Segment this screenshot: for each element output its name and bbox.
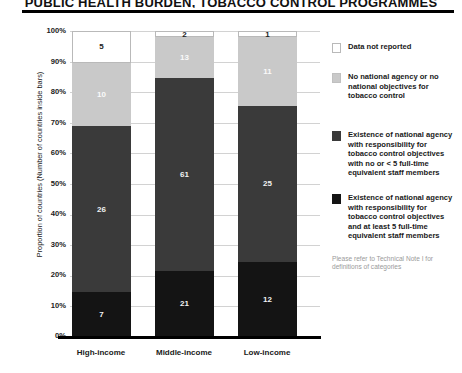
legend-label: Existence of national agency with respon… (348, 130, 458, 178)
chart-figure: PUBLIC HEALTH BURDEN, TOBACCO CONTROL PR… (0, 0, 462, 373)
legend-label: No national agency or no national object… (348, 72, 458, 101)
x-tick-label-high-income: High-income (56, 348, 146, 357)
y-tick-30: 30% (32, 240, 66, 249)
figure-title: PUBLIC HEALTH BURDEN, TOBACCO CONTROL PR… (0, 0, 462, 8)
legend-item-data-not-reported[interactable]: Data not reported (332, 42, 458, 53)
y-tick-90: 90% (32, 57, 66, 66)
legend-item-agency-under5-staff[interactable]: Existence of national agency with respon… (332, 130, 458, 178)
bar-segment-agency-5plus-staff: 7 (72, 292, 131, 337)
legend-swatch-darkgray-icon (332, 131, 341, 141)
y-tick-70: 70% (32, 118, 66, 127)
y-tick-50: 50% (32, 179, 66, 188)
x-tick-label-middle-income: Middle-income (139, 348, 229, 357)
legend-swatch-black-icon (332, 194, 341, 204)
bar-segment-no-agency: 10 (72, 63, 131, 127)
y-tick-100: 100% (32, 26, 66, 35)
y-tick-60: 60% (32, 148, 66, 157)
legend-label: Data not reported (348, 42, 411, 53)
title-rule (22, 10, 454, 13)
legend-swatch-white-icon (332, 43, 341, 53)
legend-swatch-lightgray-icon (332, 73, 341, 83)
bar-segment-agency-5plus-staff: 21 (155, 271, 214, 337)
bar-segment-data-not-reported: 5 (72, 31, 131, 63)
x-axis-line (58, 336, 321, 339)
bar-segment-agency-5plus-staff: 12 (238, 262, 297, 337)
y-tick-20: 20% (32, 270, 66, 279)
bar-low-income[interactable]: 1 11 25 12 (238, 31, 297, 337)
bar-segment-agency-under5-staff: 61 (155, 78, 214, 270)
bar-high-income[interactable]: 5 10 26 7 (72, 31, 131, 337)
legend-label: Existence of national agency with respon… (348, 193, 458, 241)
y-tick-80: 80% (32, 87, 66, 96)
y-tick-10: 10% (32, 301, 66, 310)
bar-segment-no-agency: 11 (238, 37, 297, 106)
y-tick-40: 40% (32, 209, 66, 218)
chart-footnote: Please refer to Technical Note I for def… (332, 255, 458, 272)
plot-area: 5 10 26 7 2 13 61 21 1 11 25 12 (70, 31, 320, 337)
legend-item-agency-5plus-staff[interactable]: Existence of national agency with respon… (332, 193, 458, 241)
y-axis-ticks: 100% 90% 80% 70% 60% 50% 40% 30% 20% 10%… (26, 31, 66, 337)
bar-segment-agency-under5-staff: 26 (72, 126, 131, 292)
bar-middle-income[interactable]: 2 13 61 21 (155, 31, 214, 337)
bar-segment-no-agency: 13 (155, 37, 214, 78)
x-tick-label-low-income: Low-income (222, 348, 312, 357)
legend-item-no-national-agency[interactable]: No national agency or no national object… (332, 72, 458, 101)
bar-segment-agency-under5-staff: 25 (238, 106, 297, 262)
